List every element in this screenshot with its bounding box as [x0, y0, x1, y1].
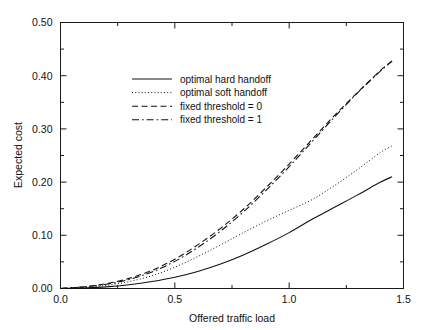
legend-label: optimal soft handoff: [180, 87, 267, 98]
legend-label: fixed threshold = 0: [180, 101, 262, 112]
y-tick-label: 0.00: [32, 282, 53, 294]
x-tick-label: 0.0: [53, 293, 68, 305]
x-axis-title: Offered traffic load: [189, 312, 275, 324]
y-tick-label: 0.40: [32, 70, 53, 82]
y-tick-label: 0.10: [32, 229, 53, 241]
x-tick-label: 0.5: [168, 293, 183, 305]
y-tick-label: 0.20: [32, 176, 53, 188]
curve-dotted: [61, 146, 393, 289]
chart-legend: optimal hard handoffoptimal soft handoff…: [132, 74, 271, 126]
x-tick-label: 1.0: [282, 293, 297, 305]
y-tick-label: 0.30: [32, 123, 53, 135]
plot-frame: [61, 23, 404, 289]
y-axis-title: Expected cost: [12, 122, 24, 188]
curve-solid: [61, 177, 393, 289]
chart-canvas: 0.000.100.200.300.400.50 0.00.51.01.5 Of…: [0, 0, 426, 330]
x-axis-tick-labels: 0.00.51.01.5: [53, 293, 411, 305]
legend-label: optimal hard handoff: [180, 74, 271, 85]
chart-figure: 0.000.100.200.300.400.50 0.00.51.01.5 Of…: [0, 0, 426, 330]
legend-label: fixed threshold = 1: [180, 114, 262, 125]
x-tick-label: 1.5: [396, 293, 411, 305]
axis-tickmarks: [61, 23, 404, 289]
y-axis-tick-labels: 0.000.100.200.300.400.50: [32, 16, 53, 294]
y-tick-label: 0.50: [32, 16, 53, 28]
